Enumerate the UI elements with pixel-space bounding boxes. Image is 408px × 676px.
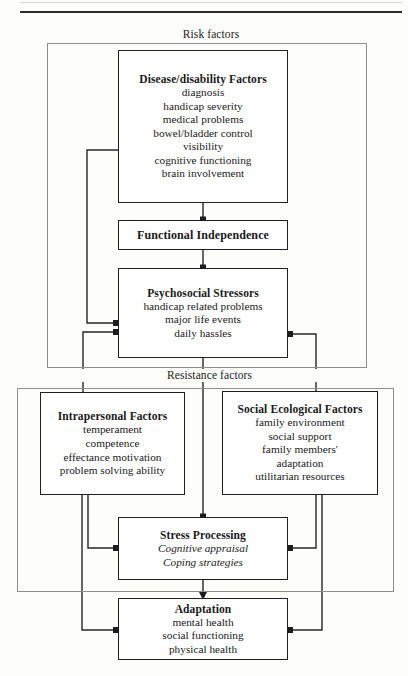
node-social-ecological-factors[interactable]: Social Ecological Factors family environ… xyxy=(222,391,378,495)
node-functional-independence[interactable]: Functional Independence xyxy=(118,220,288,250)
node-intrapersonal-factors[interactable]: Intrapersonal Factors temperament compet… xyxy=(40,392,185,495)
node-item: diagnosis xyxy=(182,86,225,100)
node-item: competence xyxy=(86,437,140,451)
node-item: effectance motivation xyxy=(64,451,162,465)
node-item: visibility xyxy=(183,140,223,154)
node-adaptation[interactable]: Adaptation mental health social function… xyxy=(118,598,288,660)
node-item: social support xyxy=(268,430,331,444)
node-item: mental health xyxy=(172,616,233,630)
node-item: handicap severity xyxy=(163,100,242,114)
node-item: family members' xyxy=(262,443,338,457)
node-item: cognitive functioning xyxy=(155,154,252,168)
node-title: Social Ecological Factors xyxy=(237,402,362,416)
frame-label-risk-factors: Risk factors xyxy=(47,28,375,41)
node-item: physical health xyxy=(169,643,237,657)
frame-label-resistance-factors: Resistance factors xyxy=(17,369,402,382)
node-item: Coping strategies xyxy=(163,556,243,570)
node-title: Disease/disability Factors xyxy=(139,72,267,86)
node-item: adaptation xyxy=(276,457,323,471)
node-title: Stress Processing xyxy=(160,528,246,542)
node-psychosocial-stressors[interactable]: Psychosocial Stressors handicap related … xyxy=(118,268,288,358)
node-item: daily hassles xyxy=(174,327,231,341)
node-item: handicap related problems xyxy=(143,300,262,314)
diagram-canvas: Risk factors Resistance factors Disease/… xyxy=(0,0,408,676)
node-stress-processing[interactable]: Stress Processing Cognitive appraisal Co… xyxy=(118,517,288,580)
node-item: medical problems xyxy=(163,113,244,127)
node-title: Functional Independence xyxy=(137,228,269,242)
node-item: utilitarian resources xyxy=(255,470,344,484)
node-item: Cognitive appraisal xyxy=(158,542,248,556)
node-item: temperament xyxy=(83,423,142,437)
node-item: problem solving ability xyxy=(60,464,165,478)
node-title: Psychosocial Stressors xyxy=(147,286,259,300)
node-title: Adaptation xyxy=(175,602,232,616)
node-title: Intrapersonal Factors xyxy=(58,409,168,423)
node-item: brain involvement xyxy=(162,167,245,181)
node-disease-disability-factors[interactable]: Disease/disability Factors diagnosis han… xyxy=(118,50,288,203)
node-item: social functioning xyxy=(162,629,243,643)
node-item: bowel/bladder control xyxy=(153,127,252,141)
node-item: major life events xyxy=(165,313,241,327)
node-item: family environment xyxy=(255,416,344,430)
